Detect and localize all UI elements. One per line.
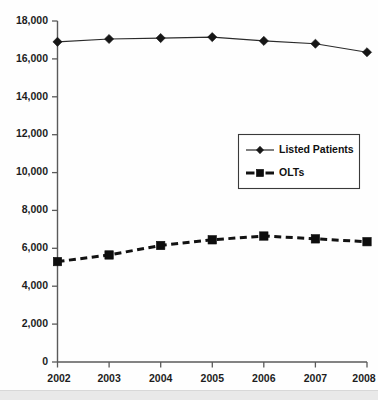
x-tick-label: 2008 [352,372,376,384]
x-tick-label: 2004 [149,372,173,384]
data-point-marker[interactable] [311,39,320,48]
y-tick-label: 18,000 [16,14,48,26]
data-point-marker[interactable] [208,236,216,244]
y-tick-label: 10,000 [16,165,48,177]
y-tick-label: 14,000 [16,90,48,102]
data-point-marker[interactable] [362,48,371,57]
x-tick-label: 2002 [47,372,71,384]
y-tick-label: 4,000 [22,279,48,291]
legend-label: Listed Patients [279,143,354,155]
data-point-marker[interactable] [53,37,62,46]
data-point-marker[interactable] [105,251,113,259]
x-tick-label: 2003 [97,372,121,384]
y-axis-tick-labels: 18,000 16,000 14,000 12,000 10,000 8,000… [16,14,48,367]
chart-legend: Listed Patients OLTs [239,135,360,189]
x-axis-tick-labels: 2002 2003 2004 2005 2006 2007 2008 [47,372,376,384]
data-point-marker[interactable] [156,241,164,249]
bottom-strip [0,390,378,400]
x-tick-label: 2007 [304,372,328,384]
x-tick-label: 2005 [201,372,225,384]
data-point-marker[interactable] [104,34,113,43]
series-listed-patients [53,33,372,57]
y-tick-label: 6,000 [22,241,48,253]
data-point-marker[interactable] [208,33,217,42]
data-point-marker[interactable] [53,257,61,265]
y-axis-ticks [52,21,58,362]
series-olts [53,232,371,266]
y-tick-label: 12,000 [16,127,48,139]
data-point-marker[interactable] [259,36,268,45]
y-tick-label: 8,000 [22,203,48,215]
square-marker-icon [256,169,263,176]
y-tick-label: 2,000 [22,317,48,329]
data-point-marker[interactable] [311,235,319,243]
y-tick-label: 0 [42,355,48,367]
data-point-marker[interactable] [260,232,268,240]
y-tick-label: 16,000 [16,52,48,64]
x-tick-label: 2006 [252,372,276,384]
data-point-marker[interactable] [156,33,165,42]
legend-label: OLTs [279,166,304,178]
x-axis-ticks [58,362,368,368]
data-point-marker[interactable] [363,238,371,246]
